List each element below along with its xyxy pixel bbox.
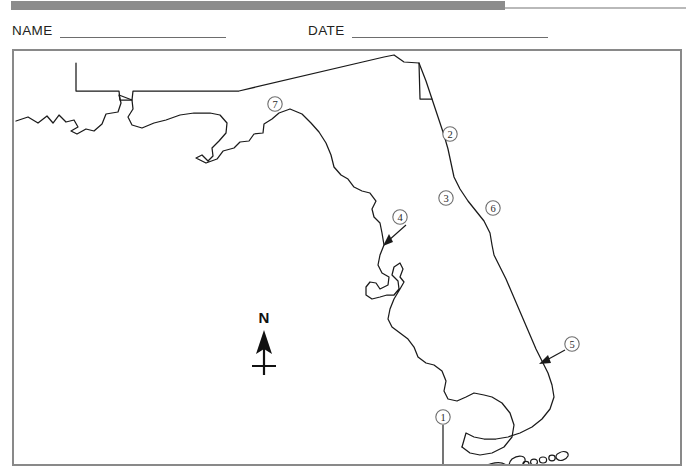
name-label: NAME [12, 23, 53, 38]
marker-1[interactable]: 1 [436, 410, 450, 424]
gulf-coastline [16, 95, 514, 455]
north-arrow-label: N [259, 309, 270, 326]
marker-1-label: 1 [440, 412, 445, 423]
date-input-line[interactable] [352, 23, 548, 38]
marker-4-arrowhead [383, 234, 393, 246]
marker-3-label: 3 [443, 193, 448, 204]
name-input-line[interactable] [60, 23, 226, 38]
marker-3[interactable]: 3 [439, 191, 453, 205]
atlantic-coastline [419, 63, 554, 447]
marker-4[interactable]: 4 [393, 210, 407, 224]
marker-6[interactable]: 6 [486, 201, 500, 215]
marker-2-label: 2 [447, 129, 452, 140]
date-field-group: DATE [308, 16, 548, 38]
date-label: DATE [308, 23, 345, 38]
key-isle-hook-east [556, 452, 568, 461]
key-isle-dot-5 [539, 457, 546, 463]
header-thin-rule [505, 7, 686, 9]
key-isle-dot-6 [549, 455, 555, 461]
worksheet-form-row: NAME DATE [0, 16, 694, 38]
marker-4-label: 4 [397, 212, 403, 223]
key-isle-dot-4 [531, 459, 538, 464]
marker-5[interactable]: 5 [565, 337, 579, 351]
marker-6-label: 6 [490, 203, 495, 214]
key-isle-large-crescent [471, 463, 506, 464]
map-frame: 7 2 3 6 4 5 1 N [12, 49, 682, 466]
name-field-group: NAME [12, 16, 226, 38]
header-thick-bar [11, 1, 505, 10]
florida-map: 7 2 3 6 4 5 1 N [14, 51, 680, 464]
state-north-border [76, 55, 432, 100]
marker-7-label: 7 [272, 99, 277, 110]
marker-2[interactable]: 2 [443, 127, 457, 141]
marker-7[interactable]: 7 [268, 97, 282, 111]
header-decorative-band [0, 0, 694, 12]
north-arrow: N [252, 309, 276, 375]
marker-5-label: 5 [569, 339, 574, 350]
